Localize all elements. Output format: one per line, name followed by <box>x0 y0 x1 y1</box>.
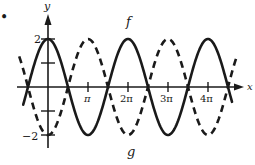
x-label-3pi: 3π <box>160 93 173 104</box>
x-label-4pi: 4π <box>200 93 213 104</box>
x-axis-arrow-icon <box>234 84 244 91</box>
curve-label-g: g <box>127 144 135 159</box>
x-label-pi: π <box>83 93 91 104</box>
y-axis-arrow-icon <box>45 14 52 25</box>
x-axis-label: x <box>247 81 253 92</box>
bullet-marker: • <box>0 9 8 25</box>
curve-label-f: f <box>125 14 133 29</box>
y-label-2: 2 <box>34 33 41 46</box>
cosine-graph: • y x 2 −2 π 2π 3π 4π f g <box>0 0 255 165</box>
y-label-neg2: −2 <box>22 130 38 143</box>
x-label-2pi: 2π <box>120 93 133 104</box>
y-axis-label: y <box>43 0 51 13</box>
